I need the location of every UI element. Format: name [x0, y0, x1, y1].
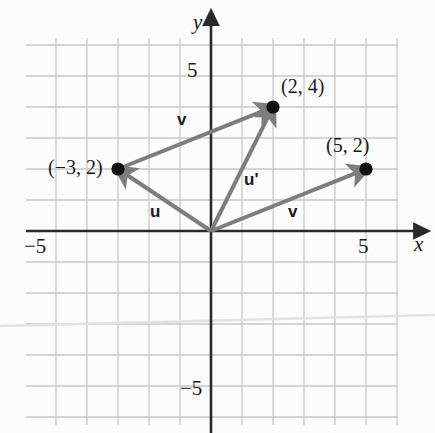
point-label-2-4: (2, 4) — [281, 76, 324, 96]
x-axis-label: x — [414, 234, 423, 255]
point-5-2 — [359, 162, 372, 175]
point-2-4 — [266, 100, 279, 113]
y-axis-label: y — [193, 12, 202, 33]
x-axis-tick-5: 5 — [358, 236, 369, 257]
y-axis-tick-5: 5 — [187, 60, 198, 81]
y-axis-tick-neg5: −5 — [180, 378, 202, 399]
point-label-5-2: (5, 2) — [326, 135, 369, 155]
vector-label-v-upper: v — [177, 111, 186, 128]
vector-label-u: u — [150, 203, 160, 220]
coordinate-plane-svg — [0, 0, 435, 433]
vector-label-u-prime: u' — [244, 171, 258, 188]
vector-label-v-lower: v — [288, 203, 297, 220]
point-neg3-2 — [111, 162, 124, 175]
x-axis-tick-neg5: −5 — [24, 236, 46, 257]
vector-diagram-figure: −5 5 5 −5 x y (2, 4) (−3, 2) (5, 2) v u'… — [0, 0, 435, 433]
point-label-neg3-2: (−3, 2) — [48, 157, 103, 177]
